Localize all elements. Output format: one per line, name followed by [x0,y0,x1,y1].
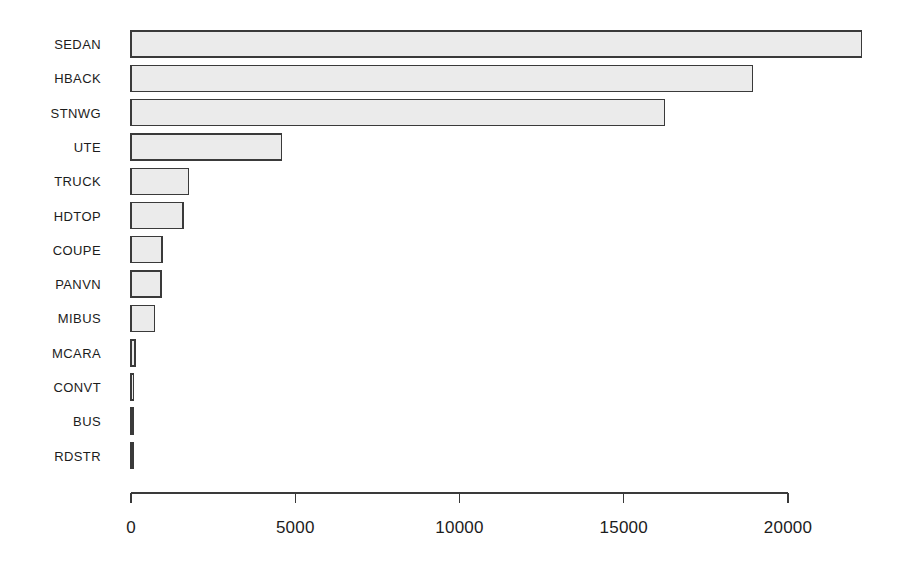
x-tick-label-20000: 20000 [764,518,812,537]
bar-chart-figure: SEDANHBACKSTNWGUTETRUCKHDTOPCOUPEPANVNMI… [0,0,897,570]
bar-coupe [131,237,162,263]
category-label-rdstr: RDSTR [54,449,101,464]
bar-hback [131,65,752,91]
category-label-stnwg: STNWG [51,106,101,121]
chart-canvas: SEDANHBACKSTNWGUTETRUCKHDTOPCOUPEPANVNMI… [0,0,897,570]
category-label-convt: CONVT [54,380,102,395]
category-label-truck: TRUCK [54,174,101,189]
x-axis-ticks [131,493,788,503]
category-label-coupe: COUPE [53,243,101,258]
bar-bus [131,408,133,434]
category-label-hdtop: HDTOP [54,209,101,224]
bar-ute [131,134,282,160]
x-tick-label-15000: 15000 [600,518,648,537]
category-label-hback: HBACK [54,71,101,86]
x-tick-label-0: 0 [126,518,136,537]
bar-truck [131,168,188,194]
category-label-mcara: MCARA [52,346,101,361]
bar-convt [131,374,134,400]
category-axis-labels: SEDANHBACKSTNWGUTETRUCKHDTOPCOUPEPANVNMI… [51,37,101,464]
category-label-panvn: PANVN [55,277,101,292]
bar-mcara [131,340,135,366]
bar-stnwg [131,100,664,126]
bar-sedan [131,31,861,57]
bar-rdstr [131,443,133,469]
category-label-sedan: SEDAN [54,37,101,52]
bar-panvn [131,271,161,297]
x-tick-label-10000: 10000 [435,518,483,537]
category-label-bus: BUS [73,414,101,429]
bar-mibus [131,305,155,331]
x-axis-tick-labels: 05000100001500020000 [126,518,812,537]
category-label-mibus: MIBUS [58,311,101,326]
category-label-ute: UTE [74,140,101,155]
x-tick-label-5000: 5000 [276,518,315,537]
bar-series-count [131,31,861,469]
bar-hdtop [131,203,183,229]
x-axis: 05000100001500020000 [126,493,812,537]
